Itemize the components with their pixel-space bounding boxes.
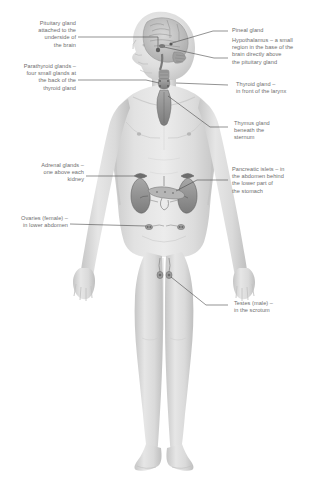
endocrine-system-diagram: Pituitary gland attached to the undersid… [0, 0, 329, 483]
label-parathyroid-glands: Parathyroid glands – four small glands a… [0, 63, 76, 92]
top-edge-artifact [64, 0, 264, 5]
label-testes: Testes (male) – in the scrotum [234, 300, 324, 314]
label-pituitary-gland: Pituitary gland attached to the undersid… [0, 20, 76, 49]
label-thyroid-gland: Thyroid gland – in front of the larynx [236, 81, 328, 95]
label-group: Pituitary gland attached to the undersid… [0, 0, 329, 483]
label-pancreatic-islets: Pancreatic islets – in the abdomen behin… [232, 166, 326, 195]
label-pineal-gland: Pineal gland [232, 27, 326, 34]
label-adrenal-glands: Adrenal glands – one above each kidney [4, 162, 84, 184]
label-ovaries: Ovaries (female) – in lower abdomen [0, 215, 68, 229]
label-hypothalamus: Hypothalamus – a small region in the bas… [232, 37, 328, 66]
label-thymus-gland: Thymus gland beneath the sternum [234, 120, 320, 142]
